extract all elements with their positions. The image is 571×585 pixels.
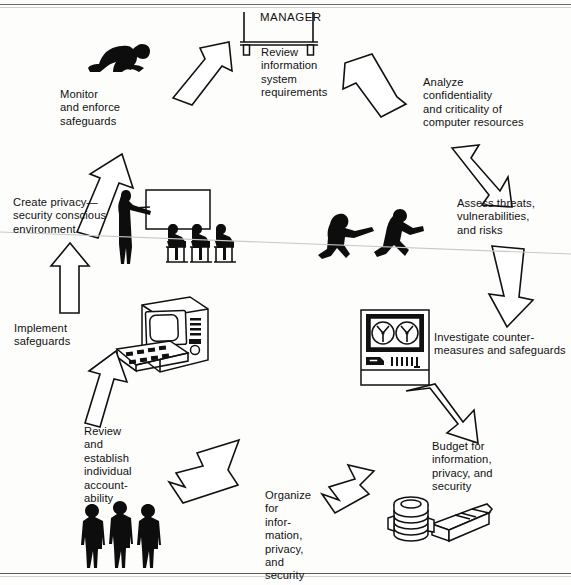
computer-terminal-icon: [117, 297, 208, 372]
manager-sign-label: MANAGER: [260, 11, 322, 24]
running-intruders-icon: [318, 209, 424, 259]
step-label-monitor: Monitor and enforce safeguards: [60, 88, 120, 128]
crawling-figure-icon: [88, 44, 150, 72]
diagram-canvas: .ar { fill:#ffffff; stroke:#111111; stro…: [0, 0, 571, 585]
three-people-icon: [81, 501, 161, 568]
step-label-review: Review information system requirements: [261, 46, 328, 100]
step-label-accountability: Review and establish individual account-…: [84, 425, 132, 505]
arrow-review-to-analyze: [343, 54, 406, 117]
arrow-assess-to-investigate: [489, 246, 533, 327]
step-label-analyze: Analyze confidentiality and criticality …: [423, 76, 524, 130]
step-label-budget: Budget for information, privacy, and sec…: [432, 440, 493, 494]
arrow-implement-to-awareness: [51, 243, 89, 313]
money-stack-icon: [388, 497, 492, 541]
step-label-assess: Assess threats, vulnerabilities, and ris…: [457, 197, 535, 237]
step-label-implement: Implement safeguards: [14, 322, 70, 349]
arrow-accountability-to-implement: [85, 351, 127, 427]
step-label-awareness: Create privacy— security conscious envir…: [13, 196, 106, 236]
classroom-presentation-icon: [118, 190, 236, 264]
arrow-investigate-to-budget: [406, 384, 478, 443]
step-label-organize: Organize for infor- mation, privacy, and…: [265, 489, 311, 583]
arrow-monitor-to-review: [173, 42, 232, 105]
step-label-investigate: Investigate counter- measures and safegu…: [434, 331, 566, 358]
arrow-budget-to-organize: [322, 465, 374, 513]
arrow-organize-to-accountability: [169, 440, 239, 503]
tape-drive-icon: [361, 310, 429, 385]
